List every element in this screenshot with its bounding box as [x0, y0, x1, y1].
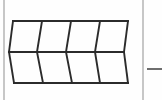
quadrilateral-tessellation-figure [0, 0, 162, 100]
figure-page: Tessellation of eight congruent quadrila… [0, 0, 162, 100]
page-background [0, 0, 162, 100]
